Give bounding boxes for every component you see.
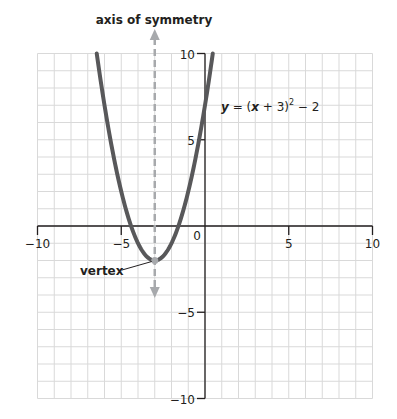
svg-text:5: 5 xyxy=(285,237,293,251)
svg-text:−5: −5 xyxy=(112,237,130,251)
equation-label: y = (x + 3)2 − 2 xyxy=(221,98,319,114)
svg-text:−10: −10 xyxy=(25,237,50,251)
svg-text:10: 10 xyxy=(365,237,380,251)
vertex-leader-line xyxy=(122,262,152,271)
vertex-point xyxy=(151,257,158,264)
tick-labels: −10−50510−10−5510 xyxy=(25,48,380,407)
parabola-chart: −10−50510−10−5510 axis of symmetry verte… xyxy=(0,0,397,419)
vertex-label: vertex xyxy=(80,264,124,278)
axis-of-symmetry-label: axis of symmetry xyxy=(96,13,213,27)
svg-text:10: 10 xyxy=(180,48,195,62)
svg-text:0: 0 xyxy=(193,229,201,243)
svg-text:5: 5 xyxy=(187,134,195,148)
svg-text:−5: −5 xyxy=(177,306,195,320)
svg-text:−10: −10 xyxy=(170,393,195,407)
